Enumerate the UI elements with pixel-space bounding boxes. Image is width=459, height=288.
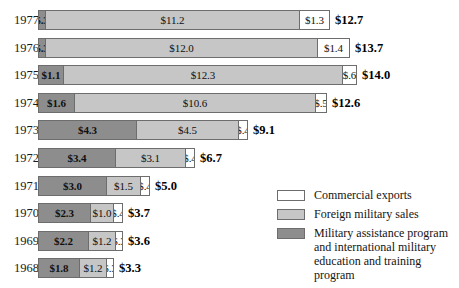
bar-segment-foreign-military-sales-1974[interactable]: $10.6 — [74, 93, 316, 113]
bar-segment-commercial-exports-1974[interactable]: $.5 — [315, 93, 327, 113]
bar-segment-commercial-exports-1972[interactable]: $.4 — [185, 148, 195, 168]
bar-segment-foreign-military-sales-1973[interactable]: $4.5 — [136, 120, 239, 140]
legend-swatch-commercial-exports — [277, 190, 305, 201]
bar-segment-value: $.4 — [185, 152, 195, 164]
bar-total-1969: $3.6 — [128, 231, 150, 251]
bar-segment-value: $1.4 — [324, 42, 343, 54]
stacked-bar-1973[interactable]: $4.3$4.5$.4 — [38, 120, 247, 140]
bar-total-1976: $13.7 — [355, 38, 383, 58]
bar-segment-value: $1.0 — [93, 207, 112, 219]
bar-segment-foreign-military-sales-1975[interactable]: $12.3 — [63, 65, 343, 85]
bar-segment-commercial-exports-1977[interactable]: $1.3 — [299, 10, 330, 30]
bar-segment-foreign-military-sales-1972[interactable]: $3.1 — [115, 148, 186, 168]
bar-total-1968: $3.3 — [119, 258, 141, 278]
stacked-bar-1972[interactable]: $3.4$3.1$.4 — [38, 148, 194, 168]
chart-legend: Commercial exportsForeign military sales… — [277, 188, 457, 287]
legend-item-1[interactable]: Foreign military sales — [277, 207, 457, 221]
bar-segment-value: $2.2 — [54, 235, 73, 247]
bar-total-1972: $6.7 — [200, 148, 222, 168]
chart-row: 1976$.3$12.0$1.4$13.7 — [0, 38, 459, 58]
bar-segment-military-assistance-1971[interactable]: $3.0 — [38, 176, 107, 196]
bar-segment-value: $2.3 — [55, 207, 74, 219]
legend-swatch-military-assistance — [277, 228, 305, 239]
bar-segment-commercial-exports-1968[interactable]: $.3 — [106, 258, 114, 278]
bar-segment-value: $.6 — [343, 69, 356, 81]
bar-segment-foreign-military-sales-1970[interactable]: $1.0 — [90, 203, 114, 223]
bar-segment-value: $.4 — [113, 207, 123, 219]
bar-segment-value: $10.6 — [183, 97, 207, 109]
bar-segment-foreign-military-sales-1977[interactable]: $11.2 — [45, 10, 300, 30]
bar-total-1971: $5.0 — [155, 176, 177, 196]
bar-segment-commercial-exports-1971[interactable]: $.4 — [140, 176, 150, 196]
bar-segment-value: $1.2 — [84, 262, 103, 274]
bar-segment-commercial-exports-1970[interactable]: $.4 — [113, 203, 123, 223]
bar-segment-military-assistance-1975[interactable]: $1.1 — [38, 65, 64, 85]
chart-row: 1977$.3$11.2$1.3$12.7 — [0, 10, 459, 30]
stacked-bar-1969[interactable]: $2.2$1.2$.3 — [38, 231, 122, 251]
stacked-bar-1968[interactable]: $1.8$1.2$.3 — [38, 258, 113, 278]
bar-total-1975: $14.0 — [362, 65, 390, 85]
chart-row: 1973$4.3$4.5$.4$9.1 — [0, 120, 459, 140]
bar-segment-value: $1.3 — [305, 14, 324, 26]
stacked-bar-1975[interactable]: $1.1$12.3$.6 — [38, 65, 356, 85]
bar-total-1974: $12.6 — [332, 93, 360, 113]
chart-row: 1974$1.6$10.6$.5$12.6 — [0, 93, 459, 113]
bar-segment-foreign-military-sales-1968[interactable]: $1.2 — [79, 258, 107, 278]
stacked-bar-1976[interactable]: $.3$12.0$1.4 — [38, 38, 349, 58]
bar-segment-value: $1.6 — [47, 97, 66, 109]
bar-segment-value: $.4 — [238, 124, 248, 136]
bar-total-1973: $9.1 — [253, 120, 275, 140]
bar-segment-foreign-military-sales-1971[interactable]: $1.5 — [106, 176, 141, 196]
legend-item-0[interactable]: Commercial exports — [277, 188, 457, 202]
bar-segment-value: $12.0 — [169, 42, 193, 54]
bar-segment-military-assistance-1973[interactable]: $4.3 — [38, 120, 137, 140]
bar-segment-value: $1.5 — [114, 180, 133, 192]
bar-segment-value: $12.3 — [191, 69, 215, 81]
bar-segment-value: $3.4 — [68, 152, 87, 164]
legend-label-0: Commercial exports — [314, 188, 412, 202]
bar-segment-commercial-exports-1976[interactable]: $1.4 — [317, 38, 350, 58]
bar-segment-military-assistance-1969[interactable]: $2.2 — [38, 231, 89, 251]
legend-label-2: Military assistance program and internat… — [314, 226, 457, 282]
legend-swatch-foreign-military-sales — [277, 209, 305, 220]
bar-segment-value: $1.8 — [50, 262, 69, 274]
bar-segment-value: $.4 — [140, 180, 150, 192]
bar-segment-military-assistance-1970[interactable]: $2.3 — [38, 203, 91, 223]
bar-segment-value: $4.5 — [178, 124, 197, 136]
chart-row: 1975$1.1$12.3$.6$14.0 — [0, 65, 459, 85]
bar-segment-value: $.5 — [315, 97, 327, 109]
bar-segment-military-assistance-1974[interactable]: $1.6 — [38, 93, 75, 113]
bar-segment-value: $1.2 — [93, 235, 112, 247]
bar-segment-value: $4.3 — [78, 124, 97, 136]
stacked-bar-1977[interactable]: $.3$11.2$1.3 — [38, 10, 329, 30]
bar-segment-value: $.3 — [115, 235, 123, 247]
bar-segment-military-assistance-1972[interactable]: $3.4 — [38, 148, 116, 168]
bar-segment-foreign-military-sales-1969[interactable]: $1.2 — [88, 231, 116, 251]
bar-total-1970: $3.7 — [128, 203, 150, 223]
bar-total-1977: $12.7 — [335, 10, 363, 30]
stacked-bar-1971[interactable]: $3.0$1.5$.4 — [38, 176, 149, 196]
stacked-bar-1974[interactable]: $1.6$10.6$.5 — [38, 93, 326, 113]
legend-item-2[interactable]: Military assistance program and internat… — [277, 226, 457, 282]
bar-segment-foreign-military-sales-1976[interactable]: $12.0 — [45, 38, 318, 58]
bar-segment-commercial-exports-1969[interactable]: $.3 — [115, 231, 123, 251]
bar-segment-commercial-exports-1973[interactable]: $.4 — [238, 120, 248, 140]
bar-segment-commercial-exports-1975[interactable]: $.6 — [342, 65, 357, 85]
stacked-bar-1970[interactable]: $2.3$1.0$.4 — [38, 203, 122, 223]
legend-label-1: Foreign military sales — [314, 207, 419, 221]
bar-segment-value: $3.0 — [63, 180, 82, 192]
bar-segment-value: $.3 — [106, 262, 114, 274]
stacked-bar-chart: 1977$.3$11.2$1.3$12.71976$.3$12.0$1.4$13… — [0, 0, 459, 288]
bar-segment-value: $3.1 — [141, 152, 160, 164]
bar-segment-military-assistance-1968[interactable]: $1.8 — [38, 258, 80, 278]
chart-row: 1972$3.4$3.1$.4$6.7 — [0, 148, 459, 168]
bar-segment-value: $11.2 — [161, 14, 185, 26]
bar-segment-value: $1.1 — [42, 69, 61, 81]
